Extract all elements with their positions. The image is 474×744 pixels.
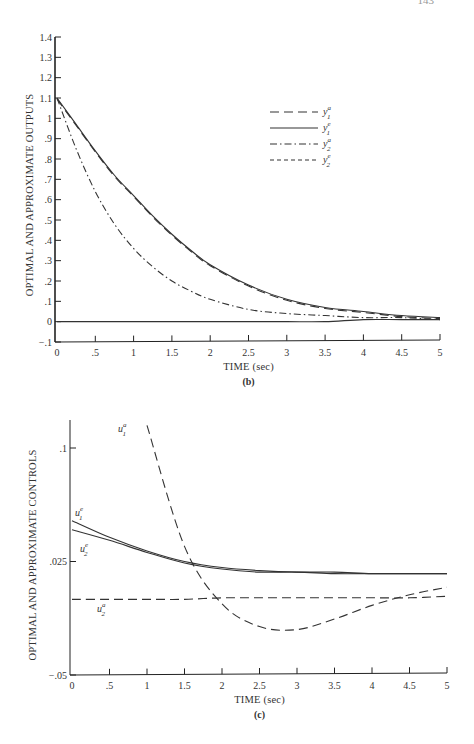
curve-label: ua1 (118, 421, 127, 438)
x-tick-label: 3 (295, 680, 300, 691)
legend-label: ya1 (322, 104, 331, 121)
y-tick-label: 1.2 (40, 72, 53, 83)
x-tick-label: .5 (92, 347, 100, 358)
y-tick-label: 1.1 (40, 93, 53, 104)
chart-c: 0.511.522.533.544.55.1.025−.05TIME (sec)… (27, 420, 450, 721)
figure-caption: (c) (254, 709, 265, 721)
x-axis (55, 340, 440, 342)
y-tick-label: .5 (45, 215, 53, 226)
x-axis-title: TIME (sec) (223, 361, 274, 373)
y-tick-label: 1.3 (40, 52, 53, 63)
curve-label: ua2 (97, 601, 106, 618)
x-tick-label: 1.5 (166, 347, 179, 358)
x-tick-label: 5 (438, 347, 443, 358)
x-tick-label: 0 (70, 680, 75, 691)
x-tick-label: 2 (208, 347, 213, 358)
y-tick-label: .9 (45, 133, 53, 144)
legend-label: ye1 (322, 120, 331, 137)
series-line (57, 319, 440, 321)
x-tick-label: .5 (106, 680, 114, 691)
x-tick-label: 4 (370, 680, 375, 691)
x-tick-label: 3 (284, 347, 289, 358)
x-tick-label: 2.5 (242, 347, 255, 358)
x-tick-label: 4.5 (403, 680, 416, 691)
y-tick-label: .3 (45, 255, 53, 266)
legend-label: ye2 (322, 152, 331, 169)
x-tick-label: 3.5 (328, 680, 341, 691)
chart-b: 0.511.522.533.544.551.41.31.21.11.9.8.7.… (24, 32, 443, 389)
y-tick-label: .1 (60, 443, 68, 454)
figure: 0.511.522.533.544.551.41.31.21.11.9.8.7.… (0, 0, 474, 744)
y-tick-label: −.1 (39, 337, 52, 348)
y-axis-title: OPTIMAL AND APPROXIMATE CONTROLS (27, 449, 38, 660)
y-tick-label: 1.4 (40, 32, 53, 43)
x-tick-label: 5 (445, 680, 450, 691)
x-tick-label: 0 (55, 347, 60, 358)
x-tick-label: 3.5 (319, 347, 332, 358)
y-tick-label: .6 (45, 194, 53, 205)
series-line (57, 98, 440, 318)
y-tick-label: .2 (45, 276, 53, 287)
y-tick-label: 0 (47, 316, 52, 327)
curve-label: ue1 (75, 505, 83, 522)
curve-label: ue2 (80, 541, 88, 558)
x-axis (70, 673, 447, 675)
x-tick-label: 1 (145, 680, 150, 691)
y-tick-label: .025 (50, 556, 68, 567)
series-line (72, 530, 447, 574)
x-tick-label: 1 (131, 347, 136, 358)
x-tick-label: 2.5 (253, 680, 266, 691)
y-tick-label: .4 (45, 235, 53, 246)
x-tick-label: 4 (361, 347, 366, 358)
y-tick-label: .7 (45, 174, 53, 185)
x-tick-label: 4.5 (395, 347, 408, 358)
series-line (72, 521, 447, 574)
y-tick-label: .1 (45, 296, 53, 307)
legend-label: ya2 (322, 136, 331, 153)
y-tick-label: 1 (47, 113, 52, 124)
x-tick-label: 2 (220, 680, 225, 691)
y-axis-title: OPTIMAL AND APPROXIMATE OUTPUTS (24, 94, 35, 297)
series-line (72, 596, 447, 599)
y-tick-label: −.05 (49, 670, 67, 681)
figure-caption: (b) (242, 376, 254, 388)
x-axis-title: TIME (sec) (234, 694, 285, 706)
x-tick-label: 1.5 (178, 680, 191, 691)
y-tick-label: .8 (45, 154, 53, 165)
